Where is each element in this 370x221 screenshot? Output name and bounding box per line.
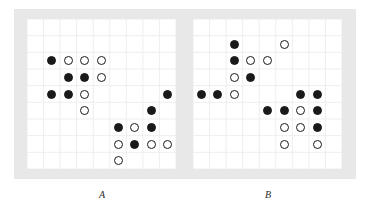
marker-open xyxy=(230,90,239,99)
marker-open xyxy=(296,123,305,132)
marker-filled xyxy=(47,56,56,65)
marker-filled xyxy=(313,123,322,132)
marker-filled xyxy=(80,73,89,82)
marker-open xyxy=(280,40,289,49)
marker-filled xyxy=(246,73,255,82)
marker-filled xyxy=(114,123,123,132)
panel-label-b: B xyxy=(248,189,288,200)
marker-filled xyxy=(197,90,206,99)
marker-filled xyxy=(147,106,156,115)
marker-filled xyxy=(147,123,156,132)
marker-open xyxy=(97,56,106,65)
marker-open xyxy=(230,73,239,82)
marker-open xyxy=(64,56,73,65)
lattice-panel-a xyxy=(27,19,176,169)
figure-root: AB xyxy=(0,0,370,221)
marker-open xyxy=(114,140,123,149)
marker-open xyxy=(280,140,289,149)
marker-open xyxy=(97,73,106,82)
marker-filled xyxy=(64,90,73,99)
lattice-panel-b xyxy=(193,19,342,169)
panel-label-a: A xyxy=(82,189,122,200)
marker-open xyxy=(246,56,255,65)
marker-open xyxy=(80,106,89,115)
marker-filled xyxy=(163,90,172,99)
marker-filled xyxy=(313,106,322,115)
panel-markers-a xyxy=(27,19,176,169)
marker-filled xyxy=(263,106,272,115)
marker-open xyxy=(80,56,89,65)
marker-open xyxy=(147,140,156,149)
marker-open xyxy=(114,156,123,165)
marker-open xyxy=(296,106,305,115)
marker-open xyxy=(280,123,289,132)
marker-filled xyxy=(296,90,305,99)
marker-filled xyxy=(64,73,73,82)
marker-open xyxy=(263,56,272,65)
marker-filled xyxy=(280,106,289,115)
marker-filled xyxy=(47,90,56,99)
marker-filled xyxy=(230,56,239,65)
marker-filled xyxy=(130,140,139,149)
marker-open xyxy=(130,123,139,132)
marker-open xyxy=(80,90,89,99)
marker-open xyxy=(163,140,172,149)
marker-open xyxy=(313,140,322,149)
panel-markers-b xyxy=(193,19,342,169)
marker-filled xyxy=(313,90,322,99)
marker-filled xyxy=(230,40,239,49)
marker-filled xyxy=(213,90,222,99)
